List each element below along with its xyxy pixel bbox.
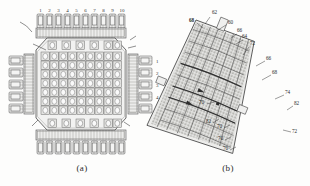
panel-a-callout-leader-3 [130,36,136,40]
panel-b-top-stub [216,17,228,31]
top-label-10: 10 [120,8,126,13]
ref-70-d: 70 [223,145,229,151]
panel-a-left-tabs [9,56,23,113]
ref-70-c: 70 [218,135,224,141]
panel-a-callout-leader-1 [20,22,32,32]
panel-a-callout-leader-4 [128,46,136,48]
ref-70-a: 70 [199,99,205,105]
top-label-4: 4 [66,8,69,13]
panel-a-bottom-tabs [37,141,125,154]
ref-68-b: 68 [272,69,278,75]
panel-a-caption: (a) [62,163,102,173]
ref-66-b: 66 [266,55,272,61]
top-label-1: 1 [39,8,42,13]
ref-62: 62 [212,9,218,15]
top-label-6: 6 [84,8,87,13]
ref-72-a: 72 [250,40,256,46]
panel-a-top-tabs [37,14,125,28]
ref-82-b: 82 [206,118,212,124]
panel-a-callout-leader-6 [124,122,130,126]
right-label-4: 4 [156,95,159,100]
top-label-2: 2 [48,8,51,13]
top-label-9: 9 [111,8,114,13]
panel-b: 62 60 68 66 64 72 66 68 74 82 70 82 70 7… [140,4,300,159]
ref-74: 74 [285,89,291,95]
ref-70-b: 70 [217,123,223,129]
panel-a-cell-grid [41,41,122,128]
ref-68-a: 68 [189,17,195,23]
ref-82-a: 82 [294,100,300,106]
panel-b-caption: (b) [208,163,248,173]
panel-a: 1 2 3 4 5 6 7 8 9 10 [9,8,159,154]
top-label-5: 5 [75,8,78,13]
right-label-2: 2 [156,71,159,76]
right-label-1: 1 [156,59,159,64]
panel-a-top-labels: 1 2 3 4 5 6 7 8 9 10 [39,8,125,13]
figure-root: 1 2 3 4 5 6 7 8 9 10 [0,0,310,186]
panel-a-right-tabs [139,56,152,113]
ref-72-b: 72 [292,128,298,134]
top-label-3: 3 [57,8,60,13]
panel-a-callout-leader-5 [32,120,38,126]
top-label-7: 7 [93,8,96,13]
ref-64: 64 [242,33,248,39]
ref-60: 60 [228,19,234,25]
top-label-8: 8 [102,8,105,13]
